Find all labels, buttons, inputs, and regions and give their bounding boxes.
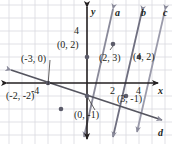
point-4-2 (137, 55, 142, 60)
line-a (84, 9, 113, 137)
point-3-neg1 (124, 94, 129, 99)
point-0-neg1 (85, 94, 90, 99)
point-2-3 (111, 42, 116, 47)
line-b (113, 11, 142, 137)
coordinate-plane-svg (0, 0, 172, 144)
point-neg2-neg2 (59, 107, 64, 112)
grid-lines (0, 0, 172, 144)
graph-figure: (0, 2) (-3, 0) (2, 3) (4, 2) (-2, -2) (3… (0, 0, 172, 144)
point-0-2 (85, 55, 90, 60)
